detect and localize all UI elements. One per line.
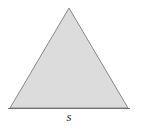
geometry-figure: s <box>0 0 141 129</box>
side-length-label-s: s <box>0 110 138 123</box>
